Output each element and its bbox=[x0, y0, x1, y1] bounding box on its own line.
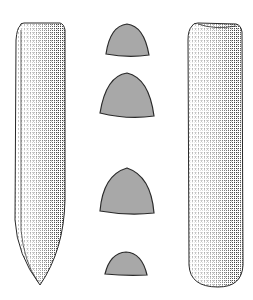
right-side-view bbox=[188, 20, 244, 290]
chisel-drawing bbox=[0, 0, 253, 300]
cross-section-3 bbox=[100, 168, 154, 214]
cross-sections bbox=[100, 24, 154, 275]
illustration-canvas bbox=[0, 0, 253, 300]
cross-section-1 bbox=[106, 24, 149, 56]
cross-section-4 bbox=[105, 252, 147, 275]
left-face-view bbox=[15, 20, 67, 290]
cross-section-2 bbox=[100, 73, 154, 117]
